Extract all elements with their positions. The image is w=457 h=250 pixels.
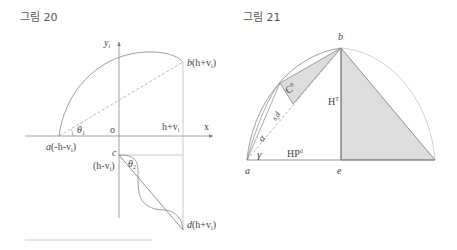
sid-label: sid xyxy=(270,109,284,123)
x-axis-label: x xyxy=(204,121,209,132)
point-e-label: e xyxy=(337,165,342,176)
point-b-label: b xyxy=(338,31,343,42)
figure-20: yi x o θ1 h+vi a(-h-vi) b(h+vi) c (h-vi)… xyxy=(25,37,216,240)
theta1-label: θ1 xyxy=(77,124,85,136)
point-c-label: c xyxy=(112,147,117,158)
diagram-canvas: yi x o θ1 h+vi a(-h-vi) b(h+vi) c (h-vi)… xyxy=(0,0,457,250)
base-label: HPd xyxy=(287,148,303,159)
point-a-label: a xyxy=(245,165,250,176)
y-axis-label: yi xyxy=(103,37,110,49)
shaded-right-triangle xyxy=(341,48,435,160)
point-d-label: d(h+vi) xyxy=(187,219,216,231)
point-c-coord-label: (h-vi) xyxy=(93,160,115,172)
alpha-label: α xyxy=(255,132,267,143)
theta1-arc xyxy=(71,129,73,136)
origin-label: o xyxy=(110,124,115,135)
point-b-label: b(h+vi) xyxy=(187,57,216,69)
point-a-label: a(-h-vi) xyxy=(46,141,76,153)
gamma-label: γ xyxy=(257,148,262,160)
height-label: HT xyxy=(328,96,339,107)
figure-21: b a e HT HPd γ α Cθ sid xyxy=(245,31,435,176)
x-tick-label: h+vi xyxy=(162,121,180,133)
